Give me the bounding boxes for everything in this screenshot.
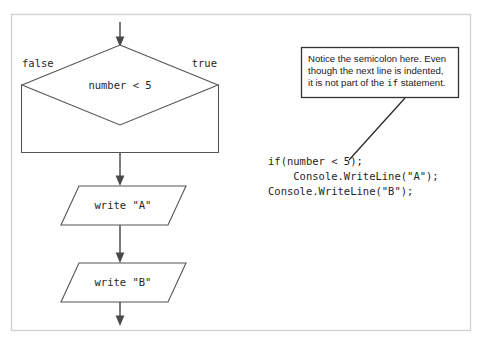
callout-line-1-pre: Notice the semicolon here. Even: [308, 53, 446, 64]
flowchart-canvas: number < 5 false true write "A" write "B…: [0, 0, 485, 346]
flowchart-figure: number < 5 false true write "A" write "B…: [0, 0, 485, 346]
callout-leader-line: [349, 98, 405, 160]
callout-keyword-if: if: [387, 77, 398, 88]
callout-line-2-pre: though the next line is indented,: [308, 65, 443, 76]
connector-merge-to-write-a: [116, 152, 125, 186]
code-line-2: Console.WriteLine("A");: [268, 170, 439, 182]
process-text-write-a: write "A": [95, 199, 152, 211]
callout-line-1: Notice the semicolon here. Even: [308, 53, 446, 65]
exit-arrow: [116, 302, 125, 326]
true-branch-label: true: [192, 57, 217, 69]
false-branch-label: false: [22, 57, 54, 69]
callout-line-3-post: statement.: [398, 77, 445, 88]
connector-write-a-to-write-b: [116, 225, 125, 263]
callout-line-3-pre: it is not part of the: [308, 77, 387, 88]
code-line-3: Console.WriteLine("B");: [268, 185, 413, 197]
decision-condition-text: number < 5: [88, 79, 151, 91]
callout-line-3: it is not part of the if statement.: [308, 77, 445, 89]
process-text-write-b: write "B": [95, 276, 152, 288]
entry-arrow: [116, 22, 125, 47]
callout-line-2: though the next line is indented,: [308, 65, 443, 77]
code-line-1: if(number < 5);: [268, 155, 363, 167]
